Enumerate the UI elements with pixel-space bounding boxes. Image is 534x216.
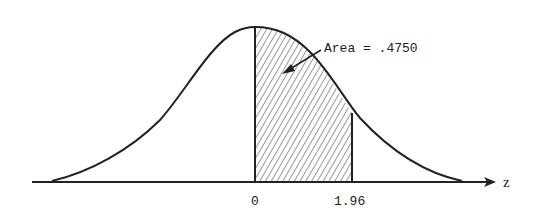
tick-label-0: 0 (251, 194, 259, 209)
normal-curve-diagram: z 0 1.96 Area = .4750 (0, 0, 534, 216)
axis-label-z: z (503, 174, 510, 190)
area-annotation: Area = .4750 (324, 41, 418, 56)
tick-label-196: 1.96 (334, 194, 365, 209)
